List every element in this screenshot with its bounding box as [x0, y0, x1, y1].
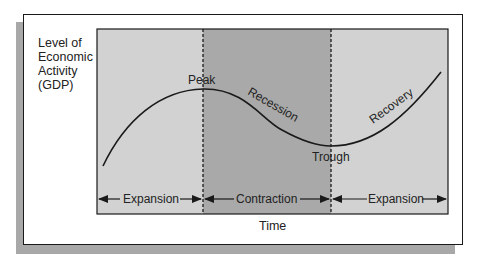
- phase-label-contraction: Contraction: [236, 192, 297, 206]
- phase-label-expansion-2: Expansion: [368, 192, 424, 206]
- peak-label: Peak: [188, 73, 216, 87]
- expansion-region-1: [97, 29, 203, 214]
- expansion-region-2: [331, 29, 448, 214]
- contraction-region: [203, 29, 331, 214]
- x-axis-label: Time: [259, 219, 286, 233]
- trough-label: Trough: [312, 150, 350, 164]
- business-cycle-diagram: Peak Recession Trough Recovery Expansion…: [0, 0, 484, 264]
- phase-label-expansion-1: Expansion: [123, 192, 179, 206]
